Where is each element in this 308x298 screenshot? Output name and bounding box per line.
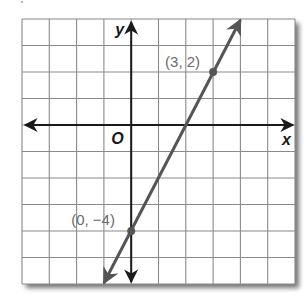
stray-mark bbox=[21, 1, 23, 3]
point-marker bbox=[127, 227, 135, 235]
origin-label: O bbox=[111, 130, 124, 147]
point-label: (3, 2) bbox=[165, 53, 200, 70]
point-marker bbox=[209, 68, 217, 76]
graph-svg: (3, 2)(0, −4) yxO bbox=[0, 0, 308, 298]
point-label: (0, −4) bbox=[71, 211, 115, 228]
x-axis-label: x bbox=[281, 131, 292, 148]
y-axis-label: y bbox=[114, 21, 125, 38]
coordinate-graph: (3, 2)(0, −4) yxO bbox=[0, 0, 308, 298]
